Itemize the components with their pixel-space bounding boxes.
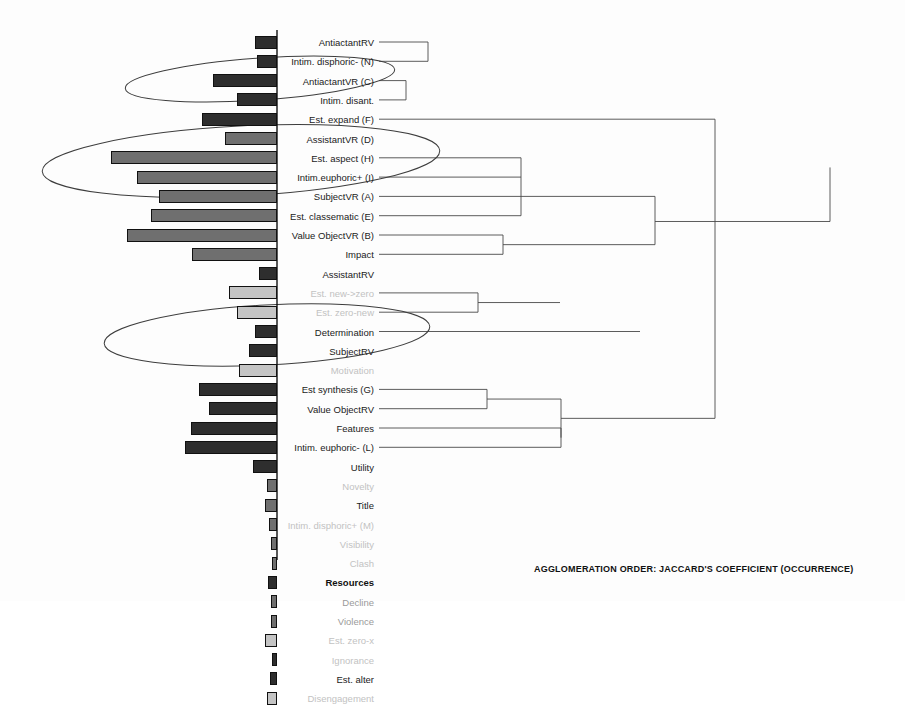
bar	[237, 306, 277, 319]
bar	[191, 422, 277, 435]
bar	[269, 518, 277, 531]
row-label: Clash	[350, 558, 374, 569]
bar	[271, 595, 277, 608]
bar	[199, 383, 277, 396]
bar	[267, 479, 277, 492]
bar	[239, 364, 277, 377]
bar	[249, 344, 277, 357]
row-label: Intim.euphoric+ (I)	[297, 172, 374, 183]
row-label: Intim. euphoric- (L)	[294, 442, 374, 453]
bar	[255, 325, 277, 338]
row-label: Est. zero-new	[316, 307, 374, 318]
row-label: Violence	[338, 616, 374, 627]
row-label: Est. expand (F)	[309, 114, 374, 125]
bar	[272, 557, 277, 570]
row-label: Est. aspect (H)	[311, 152, 374, 163]
row-label: Title	[356, 500, 374, 511]
bar	[268, 576, 277, 589]
row-label: Est. new->zero	[310, 287, 374, 298]
row-label: Intim. disphoric- (N)	[291, 56, 374, 67]
row-label: Intim. disphoric+ (M)	[288, 519, 374, 530]
bar	[271, 615, 277, 628]
row-label: Utility	[351, 461, 374, 472]
row-label: AssistantRV	[322, 268, 374, 279]
bar	[229, 286, 277, 299]
row-label: AntiactantVR (C)	[303, 75, 374, 86]
bar	[202, 113, 277, 126]
row-label: Determination	[315, 326, 374, 337]
bar	[159, 190, 277, 203]
bar	[192, 248, 277, 261]
row-label: AssistantVR (D)	[306, 133, 374, 144]
row-label: Motivation	[331, 365, 374, 376]
row-label: Est synthesis (G)	[302, 384, 374, 395]
row-label: Features	[337, 423, 375, 434]
bar	[271, 537, 277, 550]
row-label: Value ObjectVR (B)	[292, 230, 374, 241]
bar	[151, 209, 277, 222]
row-label: Novelty	[342, 480, 374, 491]
row-label: AntiactantRV	[319, 37, 374, 48]
bar	[265, 634, 277, 647]
dendrogram-layer	[379, 42, 830, 601]
row-label: SubjectRV	[329, 345, 374, 356]
bar	[259, 267, 277, 280]
bar	[137, 171, 277, 184]
bar	[213, 74, 277, 87]
bar	[257, 55, 277, 68]
row-label: Ignorance	[332, 654, 374, 665]
bar	[185, 441, 277, 454]
row-label: Est. classematic (E)	[290, 210, 374, 221]
row-label: SubjectVR (A)	[314, 191, 374, 202]
bar	[270, 672, 277, 685]
row-label: Intim. disant.	[320, 94, 374, 105]
bar	[267, 692, 277, 705]
bar	[255, 36, 277, 49]
row-label: Visibility	[340, 538, 374, 549]
row-label: Impact	[345, 249, 374, 260]
row-label: Resources	[325, 577, 374, 588]
row-label: Disengagement	[307, 693, 374, 704]
bar	[272, 653, 277, 666]
bar	[209, 402, 277, 415]
bar	[127, 229, 277, 242]
bar	[265, 499, 277, 512]
chart-caption: AGGLOMERATION ORDER: JACCARD'S COEFFICIE…	[534, 564, 853, 574]
bar	[225, 132, 277, 145]
bar	[111, 151, 277, 164]
row-label: Decline	[342, 596, 374, 607]
row-label: Est. zero-x	[329, 635, 374, 646]
bar	[237, 93, 277, 106]
bar	[253, 460, 277, 473]
row-label: Est. alter	[337, 673, 375, 684]
row-label: Value ObjectRV	[307, 403, 374, 414]
